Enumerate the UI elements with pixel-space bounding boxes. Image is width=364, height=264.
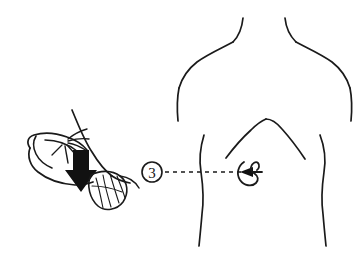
canvas-background	[0, 0, 364, 264]
illustration-root: 3	[0, 0, 364, 264]
figure-canvas: 3	[0, 0, 364, 264]
step-number-text: 3	[148, 165, 156, 181]
